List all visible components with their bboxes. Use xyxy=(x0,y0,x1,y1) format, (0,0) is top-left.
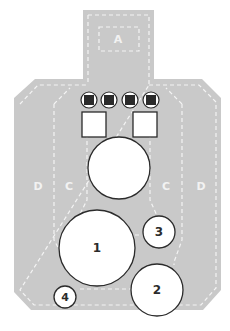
popper-4[interactable] xyxy=(143,92,159,108)
plate-1-label: 1 xyxy=(93,241,101,255)
square-plate-right[interactable] xyxy=(133,112,157,137)
plate-3[interactable]: 3 xyxy=(143,216,175,248)
plate-4[interactable]: 4 xyxy=(54,286,76,308)
plate-2[interactable]: 2 xyxy=(131,264,183,316)
center-plate[interactable] xyxy=(88,137,150,199)
zone-label-right-outer: D xyxy=(196,180,205,193)
plate-4-label: 4 xyxy=(61,291,69,304)
shooting-target: A D C C D 1 2 3 xyxy=(0,0,230,331)
zone-label-head: A xyxy=(114,33,123,46)
popper-1[interactable] xyxy=(81,92,97,108)
zone-label-right-inner: C xyxy=(162,180,170,193)
popper-3[interactable] xyxy=(122,92,138,108)
plate-2-label: 2 xyxy=(153,283,161,297)
plate-3-label: 3 xyxy=(155,225,163,239)
plate-1[interactable]: 1 xyxy=(59,210,135,286)
zone-label-left-inner: C xyxy=(65,180,73,193)
zone-label-left-outer: D xyxy=(33,180,42,193)
square-plate-left[interactable] xyxy=(82,112,106,137)
popper-2[interactable] xyxy=(101,92,117,108)
